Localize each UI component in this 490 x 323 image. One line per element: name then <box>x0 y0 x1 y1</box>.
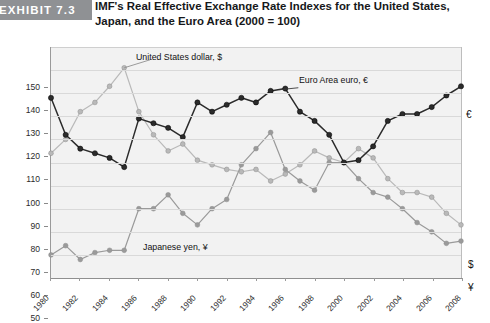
x-axis-tick <box>256 278 257 281</box>
x-axis-tick <box>227 278 228 281</box>
x-axis-tick-label: 1990 <box>178 293 198 313</box>
data-point <box>180 211 185 216</box>
y-axis-tick-label: 70 <box>6 267 40 277</box>
annotation-us-dollar: United States dollar, $ <box>136 52 222 62</box>
y-axis-tick-label: 110 <box>6 174 40 184</box>
exhibit-badge-label: EXHIBIT 7.3 <box>0 4 76 16</box>
gridline <box>51 139 461 140</box>
x-axis-tick <box>79 278 80 281</box>
x-axis-tick-label: 1982 <box>60 293 80 313</box>
data-point <box>107 155 112 160</box>
data-point <box>283 167 288 172</box>
data-point <box>415 220 420 225</box>
gridline <box>51 209 461 210</box>
data-point <box>107 84 112 89</box>
chart-area: 5060708090100110120130140150 19801982198… <box>0 40 490 317</box>
x-axis-tick-label: 1986 <box>119 293 139 313</box>
data-point <box>122 248 127 253</box>
data-point <box>298 179 303 184</box>
y-axis-tick <box>44 179 48 180</box>
data-point <box>312 188 317 193</box>
x-axis-tick-label: 2006 <box>414 293 434 313</box>
data-point <box>151 132 156 137</box>
data-point <box>195 222 200 227</box>
x-axis-tick-label: 1984 <box>90 293 110 313</box>
data-point <box>356 176 361 181</box>
x-axis-tick <box>344 278 345 281</box>
data-point <box>151 121 156 126</box>
data-point <box>49 151 54 156</box>
y-axis-tick <box>44 318 48 319</box>
data-point <box>385 118 390 123</box>
x-axis-tick <box>285 278 286 281</box>
data-point <box>166 125 171 130</box>
gridline <box>51 186 461 187</box>
data-point <box>312 118 317 123</box>
y-axis-tick-label: 50 <box>6 313 40 323</box>
data-point <box>254 167 259 172</box>
x-axis-tick-label: 1998 <box>296 293 316 313</box>
data-point <box>459 239 464 244</box>
data-point <box>78 257 83 262</box>
end-label-euro: € <box>466 109 472 120</box>
series-euro <box>48 84 463 170</box>
y-axis-tick-label: 80 <box>6 244 40 254</box>
data-point <box>136 109 141 114</box>
data-point <box>254 146 259 151</box>
data-point <box>48 95 53 100</box>
y-axis-tick-label: 130 <box>6 128 40 138</box>
x-axis-tick <box>462 278 463 281</box>
data-point <box>458 84 463 89</box>
x-axis-tick-label: 1988 <box>149 293 169 313</box>
data-point <box>312 149 317 154</box>
figure-title: IMF's Real Effective Exchange Rate Index… <box>95 0 483 28</box>
gridline <box>51 255 461 256</box>
x-axis-tick <box>109 278 110 281</box>
y-axis-tick <box>44 156 48 157</box>
data-point <box>283 172 288 177</box>
y-axis-tick-label: 90 <box>6 221 40 231</box>
x-axis-tick-label: 1996 <box>266 293 286 313</box>
data-point <box>166 149 171 154</box>
x-axis-tick <box>168 278 169 281</box>
data-point <box>63 132 68 137</box>
y-axis-tick <box>44 272 48 273</box>
x-axis-tick <box>374 278 375 281</box>
x-axis-tick-label: 2008 <box>443 293 463 313</box>
data-point <box>195 100 200 105</box>
gridline <box>51 232 461 233</box>
y-axis-tick-label: 100 <box>6 198 40 208</box>
plot-inner <box>51 47 461 278</box>
x-axis-tick <box>138 278 139 281</box>
data-point <box>180 142 185 147</box>
gridline <box>51 163 461 164</box>
gridline <box>51 47 461 48</box>
data-point <box>209 109 214 114</box>
data-point <box>92 151 97 156</box>
x-axis-tick-label: 1992 <box>208 293 228 313</box>
data-point <box>400 190 405 195</box>
gridline <box>51 70 461 71</box>
x-axis-tick <box>403 278 404 281</box>
series-yen <box>49 130 464 262</box>
x-axis-tick-label: 2004 <box>384 293 404 313</box>
data-point <box>371 190 376 195</box>
y-axis-tick-label: 60 <box>6 290 40 300</box>
annotation-yen: Japanese yen, ¥ <box>143 242 208 252</box>
x-axis-tick <box>197 278 198 281</box>
data-point <box>93 100 98 105</box>
x-axis-tick <box>50 278 51 281</box>
data-point <box>78 146 83 151</box>
data-point <box>444 211 449 216</box>
x-axis-tick-label: 2002 <box>355 293 375 313</box>
series-line <box>51 132 461 259</box>
end-label-usd: $ <box>468 259 474 270</box>
y-axis-tick <box>44 133 48 134</box>
x-axis-tick-label: 2000 <box>325 293 345 313</box>
y-axis-tick <box>44 203 48 204</box>
y-axis-tick <box>44 87 48 88</box>
data-point <box>459 222 464 227</box>
data-point <box>224 197 229 202</box>
exhibit-badge: EXHIBIT 7.3 <box>0 0 92 20</box>
